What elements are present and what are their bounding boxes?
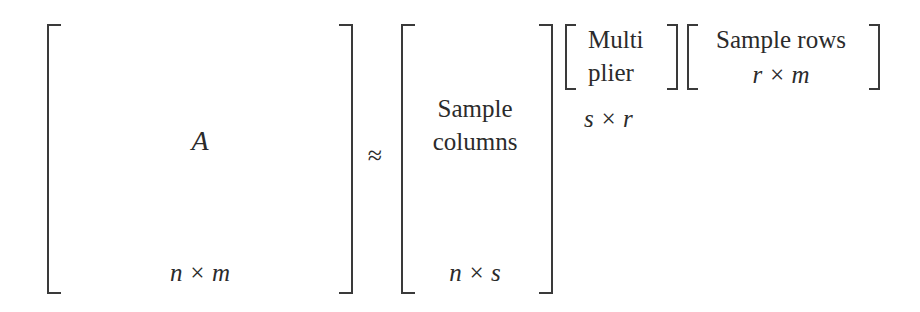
- sample-rows-line1: Sample rows: [700, 27, 862, 52]
- approx-symbol: ≈: [362, 143, 388, 169]
- sample-columns-line1: Sample: [415, 96, 535, 121]
- multiplier-line2: plier: [588, 60, 634, 85]
- sample-columns-left-bracket: [401, 24, 415, 294]
- matrix-a-right-bracket: [339, 24, 353, 294]
- matrix-a-dims: n × m: [140, 260, 260, 285]
- sample-columns-dims: n × s: [415, 260, 535, 285]
- sample-rows-right-bracket: [869, 24, 880, 90]
- matrix-a-left-bracket: [47, 24, 61, 294]
- sample-columns-line2: columns: [415, 129, 535, 154]
- sample-rows-dims: r × m: [700, 62, 862, 87]
- multiplier-left-bracket: [565, 24, 576, 90]
- multiplier-dims: s × r: [584, 106, 633, 131]
- multiplier-line1: Multi: [588, 27, 644, 52]
- matrix-a-label: A: [150, 127, 250, 155]
- sample-rows-left-bracket: [687, 24, 698, 90]
- multiplier-right-bracket: [667, 24, 678, 90]
- sample-columns-right-bracket: [539, 24, 553, 294]
